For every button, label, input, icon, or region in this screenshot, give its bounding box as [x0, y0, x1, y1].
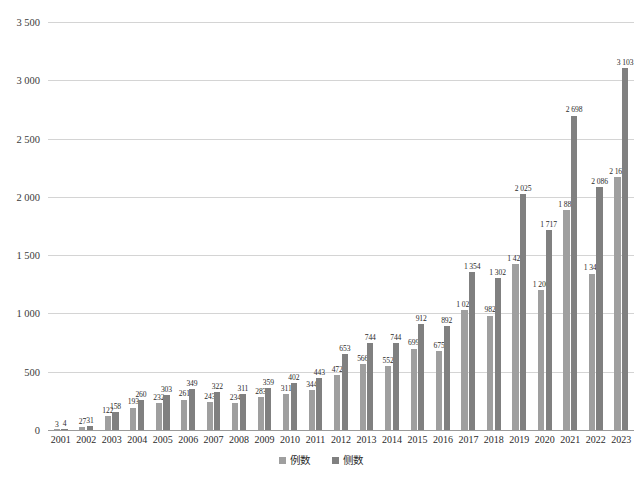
x-axis-tick-label: 2016 [433, 434, 453, 445]
bar-group: 34 [48, 22, 73, 430]
legend-swatch-icon [279, 457, 286, 464]
bar[interactable] [622, 68, 628, 430]
bar[interactable] [461, 310, 467, 430]
bar[interactable] [393, 343, 399, 430]
x-axis-tick-label: 2001 [51, 434, 71, 445]
x-axis-tick-label: 2006 [178, 434, 198, 445]
bar[interactable] [291, 383, 297, 430]
bar-group: 472653 [328, 22, 353, 430]
bar[interactable] [367, 343, 373, 430]
legend-entry[interactable]: 例数 [279, 455, 310, 466]
bar[interactable] [487, 316, 493, 430]
bar[interactable] [596, 187, 602, 430]
bar-group: 1 8892 698 [558, 22, 583, 430]
bar[interactable] [538, 290, 544, 430]
bar[interactable] [138, 400, 144, 430]
bar[interactable] [495, 278, 501, 430]
bar-value-label: 2 025 [515, 185, 532, 193]
bar[interactable] [520, 194, 526, 430]
y-axis-tick-label: 1 000 [0, 309, 40, 320]
bar[interactable] [105, 416, 111, 430]
bar-value-label: 744 [390, 334, 401, 342]
x-axis-tick-label: 2014 [382, 434, 402, 445]
bar[interactable] [589, 274, 595, 430]
bar-group: 9821 302 [481, 22, 506, 430]
bar-value-label: 1 302 [489, 269, 506, 277]
bar[interactable] [181, 400, 187, 430]
bar[interactable] [61, 429, 67, 430]
bar-group: 1 4212 025 [507, 22, 532, 430]
legend-entry[interactable]: 侧数 [332, 455, 363, 466]
x-axis-tick-label: 2004 [127, 434, 147, 445]
x-axis-tick-label: 2009 [255, 434, 275, 445]
bar-group: 1 3422 086 [583, 22, 608, 430]
bar-group: 699912 [405, 22, 430, 430]
bar[interactable] [563, 210, 569, 430]
x-axis-tick-label: 2017 [458, 434, 478, 445]
bar[interactable] [360, 364, 366, 430]
x-axis-tick-label: 2011 [306, 434, 326, 445]
x-axis-tick-label: 2015 [407, 434, 427, 445]
bar-value-label: 322 [212, 383, 223, 391]
bar[interactable] [265, 388, 271, 430]
bar[interactable] [469, 272, 475, 430]
plot-area: 3427311221581932602323032613492433222343… [48, 22, 634, 430]
bar-group: 344443 [303, 22, 328, 430]
bar[interactable] [283, 394, 289, 430]
x-axis-tick-label: 2005 [153, 434, 173, 445]
bar[interactable] [571, 116, 577, 431]
bar[interactable] [309, 390, 315, 430]
bar[interactable] [334, 375, 340, 430]
bar-value-label: 653 [339, 345, 350, 353]
x-axis-tick-label: 2003 [102, 434, 122, 445]
x-axis-tick-label: 2022 [586, 434, 606, 445]
y-axis-tick-label: 1 500 [0, 251, 40, 262]
bar[interactable] [316, 378, 322, 430]
bar[interactable] [163, 395, 169, 430]
y-axis-tick-label: 3 500 [0, 18, 40, 29]
bar[interactable] [342, 354, 348, 430]
y-axis-tick-label: 3 000 [0, 76, 40, 87]
bar[interactable] [546, 230, 552, 430]
bar-group: 232303 [150, 22, 175, 430]
x-axis-tick-label: 2002 [76, 434, 96, 445]
bar[interactable] [54, 429, 60, 430]
bar-value-label: 27 [79, 418, 86, 426]
x-axis-tick-label: 2019 [509, 434, 529, 445]
bar-group: 234311 [226, 22, 251, 430]
bar[interactable] [87, 426, 93, 430]
x-axis-tick-label: 2007 [204, 434, 224, 445]
chart-legend: 例数侧数 [0, 455, 642, 466]
bar[interactable] [614, 177, 620, 430]
bar[interactable] [189, 389, 195, 430]
bar[interactable] [232, 403, 238, 430]
bar-value-label: 311 [237, 385, 248, 393]
bar[interactable] [240, 394, 246, 430]
bar[interactable] [512, 264, 518, 430]
bar[interactable] [79, 427, 85, 430]
bar[interactable] [207, 402, 213, 430]
bar-value-label: 912 [416, 315, 427, 323]
bar-value-label: 349 [186, 380, 197, 388]
bar[interactable] [130, 408, 136, 430]
bar[interactable] [436, 351, 442, 430]
bar[interactable] [418, 324, 424, 430]
bar[interactable] [156, 403, 162, 430]
bar-group: 193260 [124, 22, 149, 430]
bar[interactable] [411, 349, 417, 430]
y-axis-tick-label: 500 [0, 368, 40, 379]
bar[interactable] [112, 412, 118, 430]
y-axis-tick-label: 2 000 [0, 193, 40, 204]
bar-value-label: 3 103 [617, 59, 634, 67]
bar[interactable] [385, 366, 391, 430]
x-axis-tick-label: 2013 [356, 434, 376, 445]
bar-value-label: 4 [63, 420, 67, 428]
legend-swatch-icon [332, 457, 339, 464]
bar[interactable] [258, 397, 264, 430]
bar[interactable] [444, 326, 450, 430]
bar-value-label: 359 [263, 379, 274, 387]
bar-group: 2731 [73, 22, 98, 430]
bar-value-label: 744 [365, 334, 376, 342]
bar-group: 122158 [99, 22, 124, 430]
bar[interactable] [214, 392, 220, 430]
